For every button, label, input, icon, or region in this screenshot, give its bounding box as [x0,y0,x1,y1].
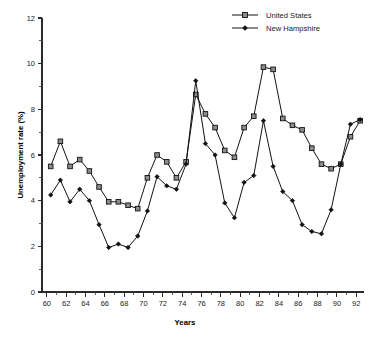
data-point-marker-square [251,114,256,119]
data-point-marker-square [290,123,295,128]
data-point-marker-square [329,166,334,171]
data-point-marker-square [116,200,121,205]
data-point-marker-square [77,157,82,162]
data-point-marker-square [213,125,218,130]
x-tick-label: 60 [43,299,51,308]
legend-entry-united-states[interactable]: United States [232,11,312,20]
legend-marker-diamond-icon [243,26,248,31]
legend-label: United States [266,11,312,20]
axis-ticks-layer [38,18,357,297]
data-point-marker-square [87,169,92,174]
data-point-marker-diamond [271,164,275,168]
unemployment-rate-line-chart: 6062646668707274767880828486889092 02468… [0,0,371,351]
data-point-marker-square [164,160,169,165]
data-point-marker-square [271,67,276,72]
series-new-hampshire [49,79,363,250]
x-tick-label: 78 [217,299,225,308]
data-point-marker-square [319,162,324,167]
x-tick-label: 86 [294,299,302,308]
x-tick-label: 80 [236,299,244,308]
x-axis-tick-labels: 6062646668707274767880828486889092 [43,299,361,308]
legend-entry-new-hampshire[interactable]: New Hampshire [232,24,320,33]
x-tick-label: 84 [275,299,283,308]
x-axis-title: Years [175,318,196,327]
y-tick-label: 2 [31,242,35,251]
data-point-marker-square [309,146,314,151]
legend-label: New Hampshire [266,24,320,33]
data-point-marker-diamond [319,232,323,236]
data-point-marker-square [280,116,285,121]
x-tick-label: 88 [313,299,321,308]
data-point-marker-diamond [107,245,111,249]
data-point-marker-diamond [348,122,352,126]
data-point-marker-square [106,200,111,205]
data-point-marker-diamond [145,209,149,213]
data-point-marker-square [126,203,131,208]
x-tick-label: 76 [197,299,205,308]
x-tick-label: 92 [352,299,360,308]
y-tick-label: 10 [27,59,35,68]
figure-container: 6062646668707274767880828486889092 02468… [0,0,371,351]
data-point-marker-square [203,112,208,117]
x-tick-label: 82 [255,299,263,308]
data-point-marker-square [135,206,140,211]
data-point-marker-square [222,148,227,153]
data-point-marker-diamond [329,208,333,212]
x-tick-label: 74 [178,299,186,308]
data-point-marker-square [58,139,63,144]
legend-marker-square-icon [243,13,248,18]
x-tick-label: 68 [120,299,128,308]
data-point-marker-square [261,65,266,70]
data-point-marker-square [232,155,237,160]
data-point-marker-diamond [261,119,265,123]
y-axis-tick-labels: 024681012 [27,14,35,297]
data-series-layer [48,65,362,250]
data-point-marker-square [68,164,73,169]
y-tick-label: 4 [31,196,35,205]
x-tick-label: 90 [333,299,341,308]
y-axis-title: Unemployment rate (%) [16,111,25,198]
x-tick-label: 72 [159,299,167,308]
data-point-marker-diamond [174,187,178,191]
series-united-states [48,65,362,211]
chart-legend: United StatesNew Hampshire [232,11,320,33]
y-tick-label: 12 [27,14,35,23]
data-point-marker-square [300,128,305,133]
data-point-marker-square [155,153,160,158]
data-point-marker-diamond [194,79,198,83]
y-tick-label: 0 [31,288,35,297]
series-polyline [51,81,360,248]
data-point-marker-square [48,164,53,169]
data-point-marker-square [145,176,150,181]
x-tick-label: 70 [139,299,147,308]
y-tick-label: 8 [31,105,35,114]
y-tick-label: 6 [31,151,35,160]
data-point-marker-square [97,185,102,190]
x-tick-label: 62 [62,299,70,308]
x-tick-label: 66 [101,299,109,308]
data-point-marker-diamond [116,242,120,246]
data-point-marker-square [242,125,247,130]
data-point-marker-square [174,176,179,181]
data-point-marker-square [348,134,353,139]
x-tick-label: 64 [81,299,89,308]
data-point-marker-diamond [97,222,101,226]
